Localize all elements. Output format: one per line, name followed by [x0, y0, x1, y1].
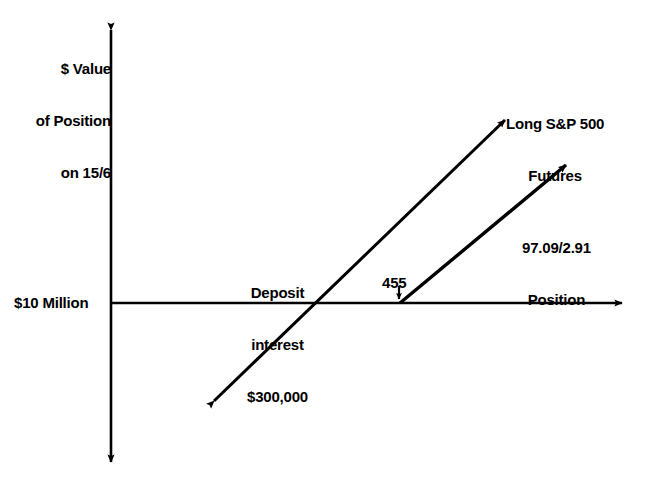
long-futures-annotation: Long S&P 500 Futures	[506, 80, 604, 219]
y-axis-label-line2: of Position	[36, 112, 111, 129]
strike-value-label: 455	[382, 274, 406, 291]
payoff-diagram: $ Value of Position on 15/6 $10 Million …	[0, 0, 651, 488]
y-axis-label: $ Value of Position on 15/6	[36, 25, 111, 216]
position-line1: 97.09/2.91	[522, 239, 591, 256]
option-position-annotation: 97.09/2.91 Position	[522, 204, 591, 343]
origin-value-label: $10 Million	[14, 294, 89, 311]
futures-line2: Futures	[506, 167, 604, 184]
y-axis-label-line1: $ Value	[36, 60, 111, 77]
futures-line1: Long S&P 500	[506, 115, 604, 132]
deposit-interest-annotation: Deposit interest $300,000	[247, 249, 308, 440]
position-line2: Position	[522, 291, 591, 308]
deposit-line1: Deposit	[247, 284, 308, 301]
deposit-line3: $300,000	[247, 388, 308, 405]
y-axis-label-line3: on 15/6	[36, 164, 111, 181]
deposit-line2: interest	[247, 336, 308, 353]
